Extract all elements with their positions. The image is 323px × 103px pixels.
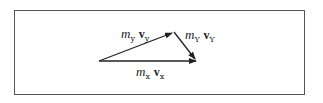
label-mY-vY: mY vY xyxy=(185,28,215,44)
label-my-vy: my vy xyxy=(121,27,149,43)
vector-diagram xyxy=(0,0,323,103)
label-mx-vx: mx vx xyxy=(136,65,164,81)
